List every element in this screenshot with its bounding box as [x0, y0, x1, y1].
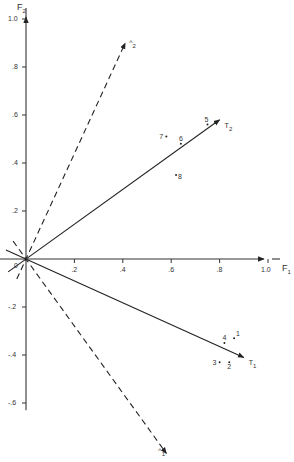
vector-label-t1: T1	[249, 359, 257, 366]
point-label: 2	[227, 363, 231, 370]
y-tick-label: .4	[12, 159, 18, 166]
y-tick-label: -.4	[8, 351, 16, 358]
point-5	[207, 124, 209, 126]
y-tick-label: 1.0	[8, 15, 18, 22]
vector-label-lambda2: ^2	[129, 39, 136, 46]
point-7	[165, 136, 167, 138]
x-tick-label: .8	[217, 266, 223, 273]
x-tick-label: 1.0	[261, 266, 271, 273]
point-3	[219, 361, 221, 363]
vectors	[6, 43, 244, 453]
axes	[0, 8, 280, 410]
y-tick-label: .6	[12, 111, 18, 118]
y-tick-label: -.6	[8, 399, 16, 406]
vector-lambda2	[17, 43, 125, 279]
x-tick-label: .6	[168, 266, 174, 273]
point-label: 3	[213, 359, 217, 366]
point-label: 4	[222, 334, 226, 341]
point-1	[233, 337, 235, 339]
vector-lambda1	[13, 241, 166, 453]
f2-axis-label: F2	[17, 3, 26, 12]
f2-sub: 2	[23, 8, 26, 14]
point-8	[175, 174, 177, 176]
f2-base: F	[17, 2, 23, 12]
point-6	[180, 143, 182, 145]
point-label: 6	[179, 135, 183, 142]
origin-label: 0	[14, 262, 18, 269]
point-label: 8	[178, 173, 182, 180]
point-label: 5	[205, 116, 209, 123]
x-tick-label: .4	[120, 266, 126, 273]
f1-axis-label: F1	[282, 264, 291, 273]
vector-label-lambda1: ^1	[158, 447, 165, 454]
factor-plot	[0, 0, 294, 462]
f1-base: F	[282, 263, 288, 273]
vector-t2	[8, 120, 219, 272]
x-tick-label: .2	[71, 266, 77, 273]
y-tick-label: -.2	[8, 303, 16, 310]
y-tick-label: .2	[12, 207, 18, 214]
y-tick-label: .8	[12, 63, 18, 70]
point-4	[223, 342, 225, 344]
vector-label-t2: T2	[225, 122, 233, 129]
point-label: 7	[159, 133, 163, 140]
f1-sub: 1	[288, 269, 291, 275]
point-label: 1	[236, 330, 240, 337]
